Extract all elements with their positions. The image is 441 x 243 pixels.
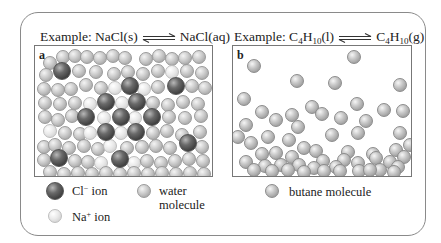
formula-c: C [289,29,298,44]
legend-cl-ion: Cl− ion [72,184,107,198]
na-ion [83,126,97,140]
butane-molecule [393,78,407,92]
butane-molecule [334,111,348,125]
water-molecule [113,167,127,177]
na-ion [108,81,122,95]
butane-molecule [396,104,410,118]
cl-ion [97,93,115,111]
butane-molecule [237,92,251,106]
legend-text: Na [72,210,87,224]
panel-b-butane: b [232,45,412,177]
water-molecule [77,139,91,153]
panel-label-a: a [39,48,45,63]
water-molecule [64,82,78,96]
butane-molecule [265,164,279,177]
cl-ion [179,134,197,152]
butane-molecule [281,163,295,177]
water-molecule [79,78,93,92]
butane-molecule [244,136,258,150]
water-molecule [163,141,177,155]
butane-molecule [291,120,305,134]
legend-text: Cl [72,184,84,198]
water-molecule [176,95,190,109]
water-molecule [192,50,206,64]
cl-ion [112,108,130,126]
equilibrium-arrow-icon [142,33,176,43]
water-molecule [43,165,57,177]
water-molecule [183,166,197,177]
butane-molecule [363,163,377,177]
water-molecule [151,64,165,78]
water-molecule [165,52,179,66]
butane-molecule [290,74,304,88]
water-molecule [68,96,82,110]
legend-na-ion: Na+ ion [72,210,110,224]
water-molecule [93,51,107,65]
legend-text: water [159,184,205,198]
butane-molecule [255,105,269,119]
title-prefix: Example: [40,29,95,44]
water-molecule [160,124,174,138]
cl-ion [97,123,115,141]
water-molecule [185,79,199,93]
water-molecule [195,140,209,154]
water-molecule [53,97,67,111]
cl-ion [167,77,185,95]
water-molecule [178,51,192,65]
water-molecule-icon [137,184,151,198]
water-molecule [141,167,155,177]
water-molecule [80,50,94,64]
butane-molecule [317,164,331,177]
title-prefix: Example: [234,29,289,44]
cl-ion-icon [46,182,64,200]
legend-water: watermolecule [159,184,205,212]
water-molecule [135,140,149,154]
legend-text: ion [88,184,107,198]
butane-molecule [325,128,339,142]
water-molecule [196,154,210,168]
cl-ion [128,93,146,111]
cl-ion [77,108,95,126]
water-molecule [169,167,183,177]
butane-molecule [393,126,407,140]
butane-molecule [269,113,283,127]
water-molecule [107,67,121,81]
title-nacl: Example: NaCl(s)NaCl(aq) [40,30,230,44]
water-molecule [152,49,166,63]
butane-molecule-icon [265,184,279,198]
water-molecule [127,166,141,177]
water-molecule [99,166,113,177]
water-molecule [195,66,209,80]
equilibrium-arrow-icon [338,33,372,43]
water-molecule [149,139,163,153]
butane-molecule [387,165,401,177]
water-molecule [57,167,71,177]
cl-ion [50,149,68,167]
water-molecule [180,64,194,78]
butane-molecule [282,133,296,147]
water-molecule [146,126,160,140]
water-molecule [198,81,212,95]
butane-molecule [350,97,364,111]
cl-ion [127,123,145,141]
water-molecule [136,67,150,81]
water-molecule [139,52,153,66]
water-molecule [38,110,52,124]
water-molecule [37,82,51,96]
butane-molecule [315,107,329,121]
water-molecule [39,68,53,82]
water-molecule [72,64,86,78]
butane-molecule [261,130,275,144]
panel-label-b: b [237,48,244,63]
water-molecule [85,167,99,177]
water-molecule [140,154,154,168]
water-molecule [155,166,169,177]
cl-ion [53,62,71,80]
cl-ion [143,108,161,126]
water-molecule [162,110,176,124]
butane-molecule [247,59,261,73]
butane-molecule [328,76,342,90]
cl-ion [111,150,129,168]
water-molecule [194,109,208,123]
water-molecule [197,167,211,177]
